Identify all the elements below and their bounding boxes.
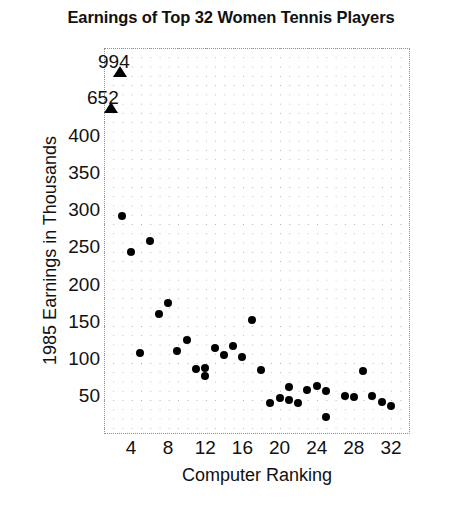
off-scale-value-label: 994 [98, 52, 130, 71]
data-point [229, 342, 237, 350]
data-point [276, 394, 284, 402]
data-point [303, 386, 311, 394]
data-point [350, 393, 358, 401]
data-point [192, 365, 200, 373]
data-point [285, 383, 293, 391]
data-point [322, 413, 330, 421]
data-point [173, 347, 181, 355]
data-point [285, 396, 293, 404]
data-point [359, 367, 367, 375]
data-point [164, 299, 172, 307]
x-axis-tick-label: 24 [297, 438, 337, 458]
data-point [201, 364, 209, 372]
data-point [387, 402, 395, 410]
off-scale-value-label: 652 [87, 88, 119, 107]
plot-area [104, 48, 410, 434]
data-point [313, 382, 321, 390]
data-point [266, 399, 274, 407]
y-axis-title: 1985 Earnings in Thousands [40, 86, 61, 416]
x-axis-tick-label: 32 [371, 438, 411, 458]
x-axis-tick-label: 4 [111, 438, 151, 458]
data-point [368, 392, 376, 400]
data-point [127, 248, 135, 256]
scatter-plot-figure: Earnings of Top 32 Women Tennis Players … [0, 0, 462, 512]
x-axis-tick-label: 20 [260, 438, 300, 458]
data-point [201, 372, 209, 380]
data-point [155, 310, 163, 318]
data-point [118, 212, 126, 220]
x-axis-tick-label: 16 [222, 438, 262, 458]
x-axis-tick-label: 28 [334, 438, 374, 458]
data-point [220, 351, 228, 359]
x-axis-title: Computer Ranking [104, 465, 410, 486]
data-point [136, 349, 144, 357]
data-point [238, 353, 246, 361]
data-point [341, 392, 349, 400]
data-point [257, 366, 265, 374]
x-axis-tick-label: 12 [185, 438, 225, 458]
data-point [183, 336, 191, 344]
data-point [146, 237, 154, 245]
data-point [378, 398, 386, 406]
x-axis-tick-label: 8 [148, 438, 188, 458]
data-point [322, 387, 330, 395]
data-point [211, 344, 219, 352]
data-point [294, 399, 302, 407]
data-point [248, 316, 256, 324]
